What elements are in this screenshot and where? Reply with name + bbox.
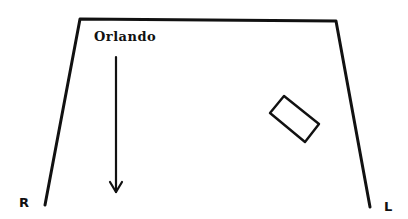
character-label: Orlando [94,29,156,44]
stage-right-label: R [19,195,29,210]
stage-left-label: L [384,199,392,214]
stage-diagram: Orlando R L [0,0,408,219]
stage-outline [45,19,370,207]
set-piece-rectangle [270,96,319,142]
movement-arrow-icon [110,57,122,192]
